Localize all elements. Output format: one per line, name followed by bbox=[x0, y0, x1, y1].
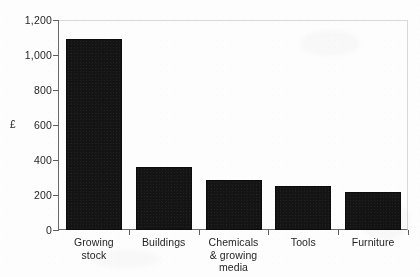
y-axis-tick-mark bbox=[53, 230, 59, 231]
x-axis-category-label: Furniture bbox=[338, 236, 408, 249]
bar-chart: 02004006008001,0001,200 £ Growing stockB… bbox=[0, 0, 420, 277]
y-axis-tick-label: 1,200 bbox=[0, 15, 52, 25]
y-axis-tick-label: 200 bbox=[0, 190, 52, 200]
y-axis-tick-label: 0 bbox=[0, 225, 52, 235]
y-axis-tick-label: 1,000 bbox=[0, 50, 52, 60]
bar bbox=[345, 192, 401, 230]
y-axis-title: £ bbox=[10, 120, 16, 130]
bar bbox=[66, 39, 122, 230]
x-axis-category-label: Chemicals & growing media bbox=[199, 236, 269, 274]
bar bbox=[136, 167, 192, 230]
x-axis-category-label: Growing stock bbox=[59, 236, 129, 261]
bar bbox=[206, 180, 262, 230]
x-axis-tick-mark bbox=[199, 230, 200, 235]
y-axis-tick-label: 800 bbox=[0, 85, 52, 95]
x-axis-tick-mark bbox=[129, 230, 130, 235]
x-axis-category-label: Tools bbox=[268, 236, 338, 249]
x-axis-tick-mark bbox=[338, 230, 339, 235]
bar-series bbox=[59, 20, 408, 230]
y-axis-tick-label: 600 bbox=[0, 120, 52, 130]
y-axis-tick-label: 400 bbox=[0, 155, 52, 165]
x-axis-tick-mark bbox=[268, 230, 269, 235]
x-axis-category-label: Buildings bbox=[129, 236, 199, 249]
x-axis-tick-mark bbox=[408, 230, 409, 235]
bar bbox=[275, 186, 331, 230]
